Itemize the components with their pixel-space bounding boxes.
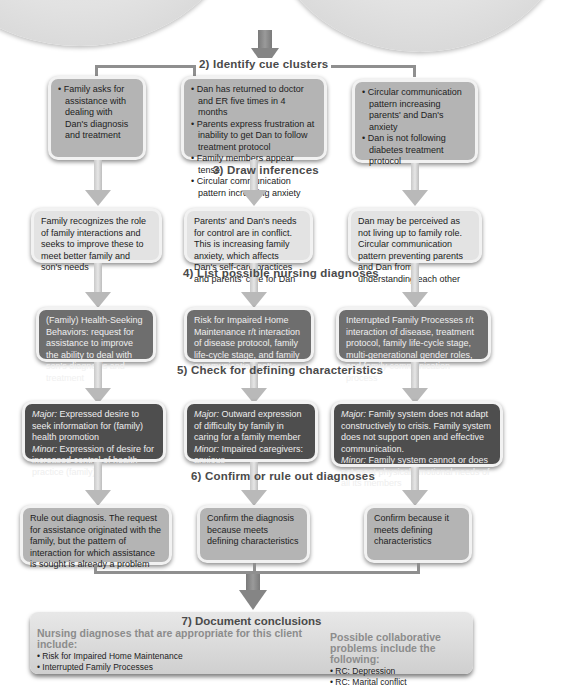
diagnosis-box-3: Interrupted Family Processes r/t interac… (336, 307, 491, 362)
nursing-diagnosis-item: Interrupted Family Processes (37, 662, 337, 673)
collaborative-problem-item: RC: Depression (330, 666, 475, 677)
top-left-circle (0, 0, 240, 46)
step-5-label: 5) Check for defining characteristics (174, 364, 386, 376)
inference-box-3: Dan may be perceived as not living up to… (348, 208, 482, 263)
major-label: Major: (32, 409, 57, 419)
cue-item: Family asks for assistance with dealing … (58, 84, 136, 142)
minor-label: Minor: (194, 444, 219, 454)
minor-label: Minor: (341, 455, 366, 465)
collaborative-problems-section: Possible collaborative problems include … (330, 632, 475, 687)
connector-line (413, 65, 416, 77)
inference-box-2: Parents' and Dan's needs for control are… (184, 208, 313, 263)
nursing-diagnoses-section: Nursing diagnoses that are appropriate f… (37, 628, 337, 672)
down-arrow-icon (247, 462, 261, 506)
down-arrow-icon (91, 263, 105, 308)
major-label: Major: (194, 409, 219, 419)
down-arrow-icon (91, 462, 105, 506)
confirmation-box-2: Confirm the diagnosis because meets defi… (197, 505, 310, 563)
cue-item: Parents express frustration at inability… (191, 119, 317, 154)
step-6-label: 6) Confirm or rule out diagnoses (188, 470, 378, 482)
inference-box-1: Family recognizes the role of family int… (31, 208, 162, 263)
down-arrow-icon (408, 263, 422, 308)
step-4-label: 4) List possible nursing diagnoses (180, 267, 382, 279)
conclusions-box: 7) Document conclusions Nursing diagnose… (30, 612, 473, 674)
characteristics-box-3: Major: Family system does not adapt cons… (331, 401, 503, 467)
cue-item: Circular communication pattern increasin… (362, 87, 468, 133)
confirmation-box-3: Confirm because it meets defining charac… (364, 505, 472, 563)
cue-cluster-box-2: Dan has returned to doctor and ER five t… (181, 76, 327, 160)
characteristics-box-2: Major: Outward expression of difficulty … (184, 401, 318, 462)
confirmation-text: Confirm the diagnosis because meets defi… (207, 513, 300, 548)
cue-item: Dan has returned to doctor and ER five t… (191, 84, 317, 119)
confirmation-text: Rule out diagnosis. The request for assi… (30, 513, 162, 571)
top-right-circle (265, 0, 564, 52)
cue-cluster-box-3: Circular communication pattern increasin… (352, 79, 478, 163)
nursing-diagnoses-heading: Nursing diagnoses that are appropriate f… (37, 628, 337, 650)
confirmation-text: Confirm because it meets defining charac… (374, 513, 462, 548)
nursing-diagnosis-item: Risk for Impaired Home Maintenance (37, 651, 337, 662)
confirmation-box-1: Rule out diagnosis. The request for assi… (20, 505, 172, 565)
major-label: Major: (341, 409, 366, 419)
cue-cluster-box-1: Family asks for assistance with dealing … (48, 76, 146, 160)
step-3-label: 3) Draw inferences (210, 164, 322, 176)
characteristics-box-1: Major: Expressed desire to seek informat… (22, 401, 166, 462)
diagnosis-box-1: (Family) Health-Seeking Behaviors: reque… (36, 307, 156, 362)
collaborative-problems-heading: Possible collaborative problems include … (330, 632, 475, 665)
step-7-label: 7) Document conclusions (30, 615, 473, 627)
down-arrow-icon (408, 163, 422, 206)
down-arrow-icon (91, 160, 105, 206)
down-arrow-icon (408, 467, 422, 506)
minor-label: Minor: (32, 444, 57, 454)
down-arrow-icon (239, 574, 267, 612)
down-arrow-icon (408, 362, 422, 404)
down-arrow-icon (91, 362, 105, 404)
diagnosis-box-2: Risk for Impaired Home Maintenance r/t i… (184, 307, 314, 362)
step-2-label: 2) Identify cue clusters (196, 58, 331, 70)
collaborative-problem-item: RC: Marital conflict (330, 677, 475, 688)
